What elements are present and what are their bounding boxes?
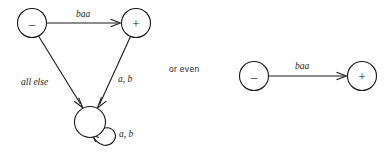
edge-line-plus-to-sink <box>100 37 131 105</box>
edge-label-minus-to-plus: baa <box>76 9 91 19</box>
automata-figure: baa all else a, b a, b <box>0 0 389 154</box>
edge-label-minus-to-plus-right: baa <box>295 61 310 71</box>
left-automaton-group: baa all else a, b a, b <box>18 9 151 146</box>
arrowhead-minus-to-sink <box>74 98 83 108</box>
right-automaton-group: baa – + <box>240 61 377 91</box>
edge-minus-to-sink: all else <box>21 36 83 108</box>
edge-plus-to-sink: a, b <box>97 37 132 109</box>
edge-label-minus-to-sink: all else <box>21 77 48 87</box>
edge-minus-to-plus-right: baa <box>269 61 347 80</box>
edge-label-plus-to-sink: a, b <box>118 74 133 84</box>
connector-label-or-even: or even <box>169 64 199 74</box>
figure-canvas: baa all else a, b a, b <box>0 0 389 154</box>
state-label-plus-left: + <box>132 16 139 31</box>
state-label-minus-right: – <box>250 69 258 84</box>
edge-label-sink-self-loop: a, b <box>119 129 134 139</box>
state-node-sink[interactable] <box>75 107 106 138</box>
state-node-plus-left[interactable]: + <box>122 9 151 38</box>
state-label-plus-right: + <box>358 69 365 84</box>
state-circle-sink[interactable] <box>75 107 106 138</box>
state-label-minus-left: – <box>28 16 36 31</box>
state-node-minus-right[interactable]: – <box>240 62 269 91</box>
state-node-minus-left[interactable]: – <box>18 9 47 38</box>
state-node-plus-right[interactable]: + <box>348 62 377 91</box>
edge-line-minus-to-sink <box>39 36 81 104</box>
edge-minus-to-plus: baa <box>47 9 121 27</box>
